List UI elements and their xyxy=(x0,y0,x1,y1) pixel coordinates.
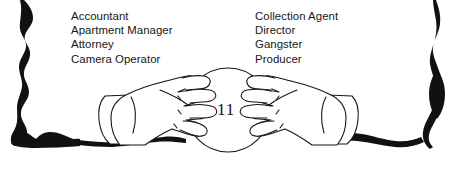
occupation-item: Attorney xyxy=(71,37,173,51)
right-finger-1 xyxy=(247,76,275,90)
hands-over-crystal-ball-illustration xyxy=(0,0,461,169)
occupation-item: Apartment Manager xyxy=(71,23,173,37)
occupation-item: Director xyxy=(255,23,338,37)
occupation-column-right: Collection Agent Director Gangster Produ… xyxy=(255,9,338,66)
left-finger-1 xyxy=(182,76,210,90)
occupation-item: Producer xyxy=(255,52,338,66)
illustration-page: 11 Accountant Apartment Manager Attorney… xyxy=(0,0,461,169)
occupation-item: Camera Operator xyxy=(71,52,173,66)
occupation-item: Accountant xyxy=(71,9,173,23)
occupation-item: Gangster xyxy=(255,37,338,51)
occupation-item: Collection Agent xyxy=(255,9,338,23)
crystal-ball-number: 11 xyxy=(0,100,461,120)
occupation-column-left: Accountant Apartment Manager Attorney Ca… xyxy=(71,9,173,66)
